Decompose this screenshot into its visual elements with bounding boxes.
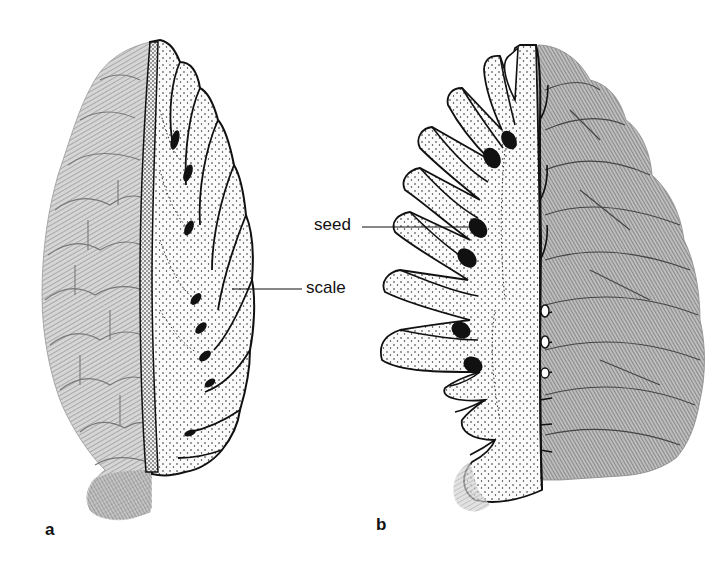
panel-b-letter: b [376,515,386,535]
cone-a-stalk [86,470,152,520]
scale-label: scale [306,278,346,298]
panel-b-cone [381,45,705,511]
panel-a-cone [42,40,254,520]
cone-b-exterior [538,45,705,480]
panel-a-letter: a [45,520,54,540]
cone-b-section [381,45,542,502]
pine-cone-figure [0,0,724,566]
seed-label: seed [314,215,351,235]
